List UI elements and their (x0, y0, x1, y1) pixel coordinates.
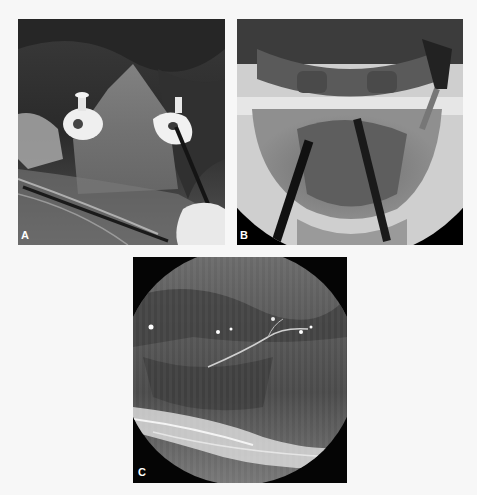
figure-panel-a: A (18, 19, 225, 245)
figure-panel-b: B (237, 19, 463, 245)
surgical-photo-image (18, 19, 225, 245)
panel-label-a: A (21, 230, 29, 241)
endoscopic-image (133, 257, 347, 483)
figure-panel-c: C (133, 257, 347, 483)
panel-label-b: B (240, 230, 248, 241)
fluoroscopy-image (237, 19, 463, 245)
panel-label-c: C (138, 467, 146, 478)
